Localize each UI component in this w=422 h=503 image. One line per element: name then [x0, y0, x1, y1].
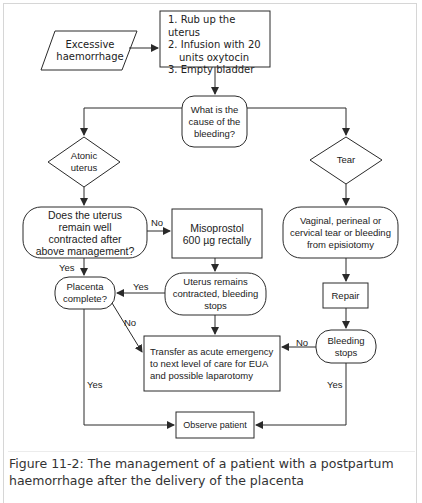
edge-label-uterus-yes: Yes: [133, 281, 149, 292]
step-2-cont: units oxytocin: [168, 52, 249, 65]
placenta-question-label: Placenta complete?: [58, 278, 112, 308]
observe-label: Observe patient: [176, 412, 254, 438]
misoprostol-label: Misoprostol 600 µg rectally: [180, 210, 254, 257]
figure-caption: Figure 11-2: The management of a patient…: [9, 455, 414, 489]
edge-label-placenta-yes: Yes: [87, 379, 103, 390]
repair-label: Repair: [323, 283, 368, 308]
edge-label-contracted-no: No: [151, 217, 163, 228]
start-label: Excessive haemorrhage: [52, 33, 128, 69]
step-2: 2. Infusion with 20: [168, 39, 261, 52]
contracted-question-label: Does the uterus remain well contracted a…: [27, 208, 143, 258]
cause-question-label: What is the cause of the bleeding?: [184, 97, 245, 146]
transfer-label: Transfer as acute emergency to next leve…: [148, 338, 278, 389]
bleeding-stops-label: Bleeding stops: [322, 331, 370, 362]
edge-label-bleeding-no: No: [296, 337, 308, 348]
initial-steps-label: 1. Rub up the uterus 2. Infusion with 20…: [160, 11, 270, 67]
edge-label-contracted-yes: Yes: [59, 262, 75, 273]
atonic-label: Atonic uterus: [60, 148, 108, 176]
uterus-contracted-label: Uterus remains contracted, bleeding stop…: [168, 274, 263, 314]
tear-types-label: Vaginal, perineal or cervical tear or bl…: [288, 208, 393, 258]
step-1: 1. Rub up the uterus: [168, 14, 270, 39]
edge-label-placenta-no: No: [124, 317, 136, 328]
step-3: 3. Empty bladder: [168, 64, 254, 77]
tear-label: Tear: [322, 152, 370, 168]
edge-label-bleeding-yes: Yes: [327, 379, 343, 390]
caption-divider: [8, 451, 415, 452]
